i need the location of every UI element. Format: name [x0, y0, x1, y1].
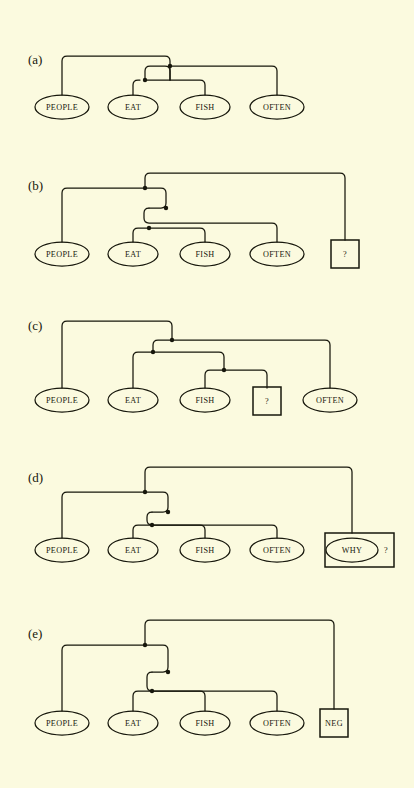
link-top-often [172, 340, 330, 388]
node-people[interactable]: PEOPLE [35, 95, 89, 119]
node-label: PEOPLE [46, 546, 78, 555]
panel-d-nodes: PEOPLE EAT FISH OFTEN [35, 533, 394, 567]
link-root-query [145, 173, 345, 240]
panel-a-label: (a) [28, 52, 42, 67]
node-people[interactable]: PEOPLE [35, 388, 89, 412]
node-why[interactable]: WHY [326, 538, 378, 562]
node-eat[interactable]: EAT [108, 242, 158, 266]
junction-dot [143, 186, 147, 190]
panel-a-nodes: PEOPLE EAT FISH OFTEN [35, 95, 304, 119]
link-top-often [144, 208, 277, 242]
node-label: FISH [195, 396, 214, 405]
node-label: OFTEN [263, 719, 291, 728]
junction-dot [166, 670, 170, 674]
link-eat-fish [133, 525, 205, 538]
node-label: EAT [125, 396, 141, 405]
node-label: PEOPLE [46, 103, 78, 112]
panel-e-label: (e) [28, 626, 42, 641]
link-eat-fish [133, 691, 205, 711]
junction-dot [150, 523, 154, 527]
panel-e-links [62, 620, 334, 711]
node-often[interactable]: OFTEN [250, 242, 304, 266]
node-label: EAT [125, 546, 141, 555]
panel-b-label: (b) [28, 178, 43, 193]
node-label: EAT [125, 103, 141, 112]
node-often[interactable]: OFTEN [250, 95, 304, 119]
node-label: OFTEN [263, 103, 291, 112]
panel-b-nodes: PEOPLE EAT FISH OFTEN ? [35, 240, 359, 268]
node-often[interactable]: OFTEN [250, 538, 304, 562]
link-eat-fish [133, 228, 205, 242]
node-eat[interactable]: EAT [108, 538, 158, 562]
node-people[interactable]: PEOPLE [35, 538, 89, 562]
node-label: PEOPLE [46, 719, 78, 728]
group-box-marker: ? [384, 546, 388, 555]
node-people[interactable]: PEOPLE [35, 711, 89, 735]
node-query[interactable]: ? [253, 387, 281, 415]
node-label: ? [343, 250, 347, 259]
panel-c-links [62, 321, 330, 388]
junction-dot [222, 368, 226, 372]
panel-e: (e) PEOPLE [28, 620, 348, 737]
junction-dot [143, 490, 147, 494]
link-root-to-top [145, 645, 168, 672]
node-often[interactable]: OFTEN [303, 388, 357, 412]
figure-container: (a) PEOPLE [0, 0, 414, 788]
node-fish[interactable]: FISH [180, 242, 230, 266]
link-people-root [62, 56, 170, 95]
panel-e-nodes: PEOPLE EAT FISH OFTEN NEG [35, 709, 348, 737]
junction-dot [147, 226, 151, 230]
link-people-root [62, 321, 172, 388]
link-root-neg [145, 620, 334, 709]
panel-a-links [62, 56, 277, 95]
node-often[interactable]: OFTEN [250, 711, 304, 735]
junction-dot [150, 689, 154, 693]
junction-dot [166, 510, 170, 514]
node-people[interactable]: PEOPLE [35, 242, 89, 266]
node-label: OFTEN [316, 396, 344, 405]
node-fish[interactable]: FISH [180, 711, 230, 735]
link-eat-up [133, 80, 140, 95]
panel-d-label: (d) [28, 470, 43, 485]
node-fish[interactable]: FISH [180, 538, 230, 562]
link-root-to-top [145, 188, 166, 208]
panel-c: (c) PEOPLE [28, 318, 357, 415]
panel-a: (a) PEOPLE [28, 52, 304, 119]
junction-dot [170, 338, 174, 342]
panel-b-links [62, 173, 345, 242]
node-label: ? [265, 397, 269, 406]
node-label: PEOPLE [46, 250, 78, 259]
link-root-why [145, 467, 352, 533]
panel-d-links [62, 467, 352, 538]
node-eat[interactable]: EAT [108, 711, 158, 735]
node-label: FISH [195, 103, 214, 112]
junction-dot [143, 78, 147, 82]
junction-dot [143, 643, 147, 647]
node-query[interactable]: ? [331, 240, 359, 268]
node-label: EAT [125, 719, 141, 728]
node-label: WHY [342, 546, 363, 555]
junction-dot [164, 206, 168, 210]
node-label: FISH [195, 719, 214, 728]
node-label: NEG [325, 719, 343, 728]
node-eat[interactable]: EAT [108, 388, 158, 412]
node-label: OFTEN [263, 250, 291, 259]
node-eat[interactable]: EAT [108, 95, 158, 119]
node-label: FISH [195, 250, 214, 259]
link-root-to-top [145, 492, 168, 512]
link-top-to-mid [153, 340, 172, 352]
diagram-svg: (a) PEOPLE [0, 0, 414, 788]
panel-d: (d) PEOPLE [28, 467, 394, 567]
junction-dot [168, 64, 172, 68]
node-neg[interactable]: NEG [320, 709, 348, 737]
link-mid-riser [145, 66, 170, 80]
node-label: PEOPLE [46, 396, 78, 405]
node-fish[interactable]: FISH [180, 388, 230, 412]
panel-c-nodes: PEOPLE EAT FISH ? OFTEN [35, 387, 357, 415]
node-label: EAT [125, 250, 141, 259]
link-mid-fish [145, 80, 205, 95]
node-fish[interactable]: FISH [180, 95, 230, 119]
panel-b: (b) PEOPLE [28, 173, 359, 268]
junction-dot [151, 350, 155, 354]
why-group-box[interactable]: WHY ? [325, 533, 394, 567]
